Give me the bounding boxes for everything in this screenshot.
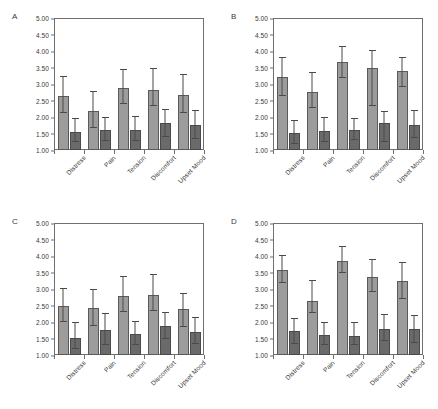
bar-dark bbox=[289, 331, 300, 355]
bar-groups bbox=[54, 223, 204, 355]
error-bar bbox=[135, 116, 136, 141]
y-axis-tick-label: 2.00 bbox=[36, 114, 54, 121]
bar-group bbox=[273, 18, 303, 150]
chart-panel-a: A5.004.504.003.503.002.502.001.501.00Dis… bbox=[0, 0, 219, 205]
bar-group bbox=[333, 18, 363, 150]
x-axis-label: Discomfort bbox=[149, 359, 177, 387]
bar-group bbox=[114, 223, 144, 355]
y-axis-tick-label: 3.50 bbox=[36, 64, 54, 71]
chart-panel-c: C5.004.504.003.503.002.502.001.501.00Dis… bbox=[0, 205, 219, 409]
error-bar bbox=[63, 288, 64, 322]
x-axis-labels: DistressPainTensionDiscomfortUpset Mood bbox=[273, 154, 423, 200]
y-axis-tick-label: 3.00 bbox=[36, 286, 54, 293]
x-axis-label: Distress bbox=[64, 154, 86, 176]
error-bar bbox=[384, 314, 385, 341]
x-axis-label: Tension bbox=[344, 359, 365, 380]
x-axis-label: Distress bbox=[64, 359, 86, 381]
bar-group bbox=[54, 18, 84, 150]
error-bar bbox=[165, 109, 166, 137]
panel-letter: B bbox=[231, 12, 237, 21]
y-axis-tick-label: 4.00 bbox=[36, 253, 54, 260]
y-axis-tick-label: 2.50 bbox=[255, 97, 273, 104]
x-axis-label: Upset Mood bbox=[176, 359, 206, 389]
error-bar bbox=[75, 118, 76, 142]
bar-dark bbox=[70, 132, 81, 150]
bar-dark bbox=[190, 125, 201, 150]
y-axis-tick-label: 1.00 bbox=[255, 352, 273, 359]
y-axis-tick-label: 4.50 bbox=[36, 31, 54, 38]
y-axis-tick-label: 4.50 bbox=[255, 31, 273, 38]
error-bar bbox=[105, 117, 106, 141]
bar-groups bbox=[54, 18, 204, 150]
bar-groups bbox=[273, 18, 423, 150]
error-bar bbox=[93, 91, 94, 128]
y-axis-tick-label: 5.00 bbox=[36, 220, 54, 227]
bar-light bbox=[307, 92, 318, 150]
plot-area: 5.004.504.003.503.002.502.001.501.00 bbox=[54, 223, 204, 355]
y-axis-tick-label: 2.00 bbox=[255, 319, 273, 326]
error-bar bbox=[372, 50, 373, 106]
bar-group bbox=[333, 223, 363, 355]
bar-dark bbox=[349, 130, 360, 150]
plot-area: 5.004.504.003.503.002.502.001.501.00 bbox=[54, 18, 204, 150]
y-axis-tick-label: 2.50 bbox=[36, 97, 54, 104]
bar-dark bbox=[409, 125, 420, 150]
error-bar bbox=[414, 315, 415, 342]
bar-group bbox=[144, 18, 174, 150]
error-bar bbox=[195, 110, 196, 138]
chart-panel-b: B5.004.504.003.503.002.502.001.501.00Dis… bbox=[219, 0, 438, 205]
y-axis-tick-label: 2.00 bbox=[36, 319, 54, 326]
bar-dark bbox=[379, 123, 390, 150]
error-bar bbox=[105, 313, 106, 345]
bar-group bbox=[303, 223, 333, 355]
bar-light bbox=[148, 90, 159, 150]
bar-dark bbox=[160, 326, 171, 355]
x-axis-label: Tension bbox=[344, 154, 365, 175]
figure-panel-grid: A5.004.504.003.503.002.502.001.501.00Dis… bbox=[0, 0, 438, 409]
x-axis-tick-mark bbox=[423, 150, 424, 154]
error-bar bbox=[183, 293, 184, 327]
y-axis-tick-label: 5.00 bbox=[255, 220, 273, 227]
error-bar bbox=[414, 110, 415, 137]
x-axis-label: Discomfort bbox=[368, 154, 396, 182]
x-axis-label: Upset Mood bbox=[395, 154, 425, 184]
y-axis-tick-label: 1.50 bbox=[36, 335, 54, 342]
bar-dark bbox=[160, 123, 171, 150]
panel-letter: C bbox=[12, 217, 18, 226]
x-axis-label: Pain bbox=[102, 154, 116, 168]
plot-area: 5.004.504.003.503.002.502.001.501.00 bbox=[273, 223, 423, 355]
bar-group bbox=[54, 223, 84, 355]
y-axis-tick-label: 2.50 bbox=[255, 302, 273, 309]
bar-light bbox=[118, 88, 129, 150]
y-axis-tick-label: 1.50 bbox=[255, 335, 273, 342]
error-bar bbox=[354, 118, 355, 140]
x-axis-label: Distress bbox=[283, 154, 305, 176]
y-axis-tick-label: 5.00 bbox=[36, 15, 54, 22]
y-axis-tick-label: 3.00 bbox=[255, 81, 273, 88]
error-bar bbox=[153, 68, 154, 107]
plot-area: 5.004.504.003.503.002.502.001.501.00 bbox=[273, 18, 423, 150]
error-bar bbox=[342, 46, 343, 78]
error-bar bbox=[354, 322, 355, 345]
y-axis-tick-label: 3.00 bbox=[36, 81, 54, 88]
bar-dark bbox=[130, 334, 141, 355]
bar-dark bbox=[349, 336, 360, 355]
bar-dark bbox=[319, 335, 330, 355]
error-bar bbox=[312, 72, 313, 108]
bar-group bbox=[114, 18, 144, 150]
bar-light bbox=[277, 270, 288, 355]
error-bar bbox=[123, 276, 124, 311]
y-axis-tick-label: 4.00 bbox=[255, 48, 273, 55]
y-axis-tick-label: 5.00 bbox=[255, 15, 273, 22]
y-axis-tick-label: 1.00 bbox=[36, 352, 54, 359]
x-axis-tick-mark bbox=[204, 150, 205, 154]
bar-dark bbox=[190, 332, 201, 355]
x-axis-labels: DistressPainTensionDiscomfortUpset Mood bbox=[273, 359, 423, 405]
bar-light bbox=[277, 77, 288, 150]
error-bar bbox=[123, 69, 124, 104]
y-axis-tick-label: 3.50 bbox=[255, 269, 273, 276]
bar-light bbox=[337, 261, 348, 355]
bar-dark bbox=[409, 329, 420, 355]
bar-group bbox=[174, 223, 204, 355]
bar-light bbox=[178, 95, 189, 150]
